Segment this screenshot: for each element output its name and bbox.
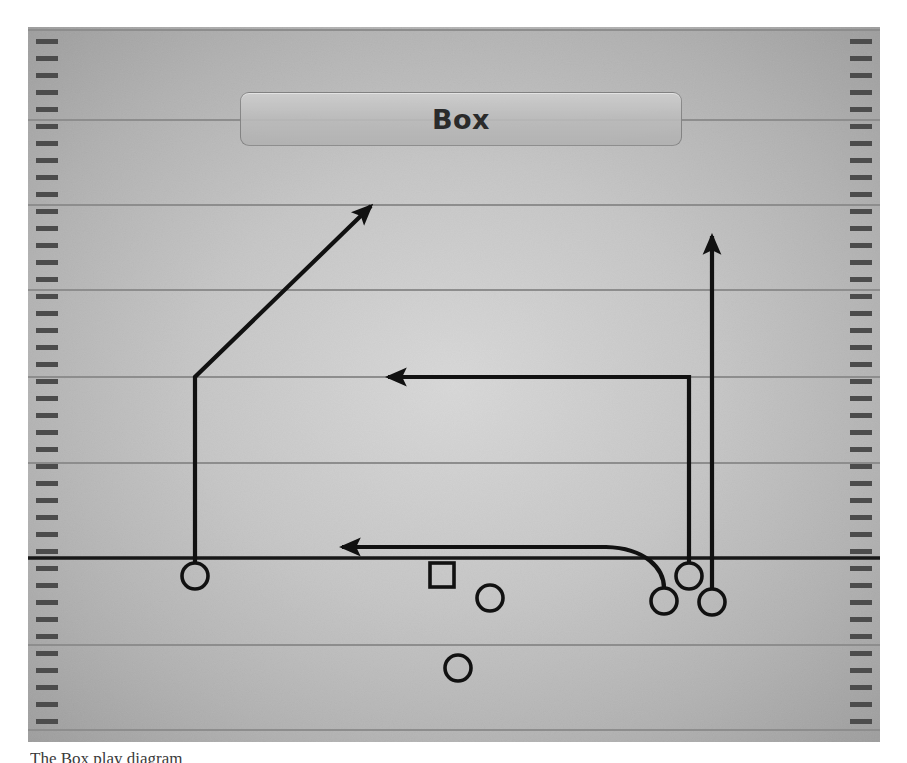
box-label-text: Box <box>432 106 490 133</box>
football-field: Box <box>28 27 880 742</box>
sideline-hash-marks-left <box>36 39 58 724</box>
play-diagram-page: Box The Box play diagram <box>0 0 907 763</box>
figure-caption: The Box play diagram <box>30 749 880 763</box>
sideline-hash-marks-right <box>850 39 872 724</box>
box-label-panel: Box <box>240 92 682 146</box>
